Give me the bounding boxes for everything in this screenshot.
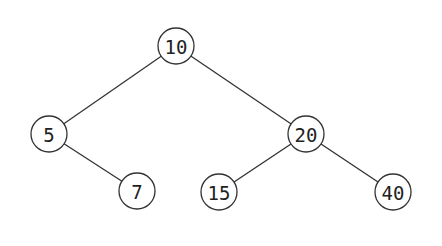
edge-10-20 — [176, 46, 306, 134]
tree-node-15: 15 — [201, 174, 237, 210]
node-label: 7 — [131, 181, 142, 203]
tree-node-20: 20 — [288, 116, 324, 152]
node-label: 20 — [295, 124, 318, 146]
node-label: 15 — [208, 182, 231, 204]
tree-svg: 1052071540 — [0, 0, 442, 246]
tree-node-40: 40 — [375, 174, 411, 210]
nodes-layer: 1052071540 — [31, 28, 411, 210]
tree-node-7: 7 — [119, 173, 155, 209]
edges-layer — [49, 46, 393, 192]
node-label: 40 — [382, 182, 405, 204]
tree-diagram: 1052071540 — [0, 0, 442, 246]
node-label: 5 — [43, 124, 54, 146]
tree-node-5: 5 — [31, 116, 67, 152]
node-label: 10 — [165, 36, 188, 58]
tree-node-10: 10 — [158, 28, 194, 64]
edge-10-5 — [49, 46, 176, 134]
